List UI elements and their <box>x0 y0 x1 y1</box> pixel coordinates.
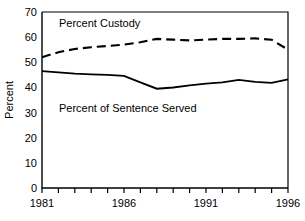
y-tick-label: 60 <box>25 31 37 43</box>
y-tick-label: 50 <box>25 56 37 68</box>
y-tick-label: 20 <box>25 132 37 144</box>
y-axis-title: Percent <box>3 81 15 119</box>
series-line-percent-of-sentence-served <box>42 71 288 89</box>
x-tick-label: 1981 <box>30 197 54 209</box>
y-tick-label: 40 <box>25 81 37 93</box>
y-tick-label: 70 <box>25 6 37 18</box>
x-tick-label: 1996 <box>276 197 300 209</box>
x-tick-label: 1991 <box>194 197 218 209</box>
x-tick-label: 1986 <box>112 197 136 209</box>
x-axis-ticks <box>42 188 288 193</box>
annotation-percent-of-sentence-served: Percent of Sentence Served <box>59 102 197 114</box>
y-axis-tick-labels: 0 10 20 30 40 50 60 70 <box>25 6 37 194</box>
line-chart: 0 10 20 30 40 50 60 70 Percent <box>0 0 305 221</box>
series-line-percent-custody <box>42 38 288 57</box>
y-tick-label: 0 <box>31 182 37 194</box>
annotation-percent-custody: Percent Custody <box>59 17 141 29</box>
x-axis-tick-labels: 1981 1986 1991 1996 <box>30 197 300 209</box>
y-tick-label: 10 <box>25 157 37 169</box>
chart-container: 0 10 20 30 40 50 60 70 Percent <box>0 0 305 221</box>
y-tick-label: 30 <box>25 107 37 119</box>
